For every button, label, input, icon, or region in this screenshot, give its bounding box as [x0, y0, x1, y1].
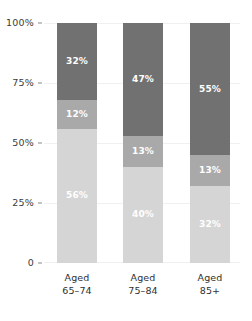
bar-segment-label: 13% — [199, 166, 221, 175]
x-tick-label-aged-85-plus: Aged 85+ — [176, 272, 244, 297]
bar-segment-medium-0[interactable]: 12% — [57, 100, 97, 129]
bar-segment-label: 47% — [132, 75, 154, 84]
x-tick-line-1: Aged — [109, 272, 177, 285]
y-axis: 100% 75% 50% 25% 0 — [0, 0, 44, 321]
y-tick-mark-75 — [38, 83, 42, 84]
bar-segment-label: 13% — [132, 147, 154, 156]
bar-segment-dark-1[interactable]: 47% — [123, 23, 163, 136]
bar-segment-medium-1[interactable]: 13% — [123, 136, 163, 167]
y-tick-label-50: 50% — [0, 138, 34, 148]
bar-segment-dark-0[interactable]: 32% — [57, 23, 97, 100]
x-axis: Aged 65–74 Aged 75–84 Aged 85+ — [44, 272, 240, 312]
y-tick-mark-0 — [38, 263, 42, 264]
bar-segment-label: 32% — [199, 220, 221, 229]
bar-segment-label: 56% — [66, 191, 88, 200]
bar-segment-label: 32% — [66, 57, 88, 66]
y-tick-mark-100 — [38, 23, 42, 24]
stacked-bar-chart: 100% 75% 50% 25% 0 32% 12% 56% — [0, 0, 252, 321]
bar-segment-dark-2[interactable]: 55% — [190, 23, 230, 155]
bar-segment-light-1[interactable]: 40% — [123, 167, 163, 263]
y-tick-label-25: 25% — [0, 198, 34, 208]
bar-segment-light-2[interactable]: 32% — [190, 186, 230, 263]
plot-area: 32% 12% 56% 47% 13% 40% — [44, 23, 240, 263]
y-tick-mark-25 — [38, 203, 42, 204]
bar-aged-75-84[interactable]: 47% 13% 40% — [123, 23, 163, 263]
bar-segment-label: 55% — [199, 85, 221, 94]
bar-segment-label: 40% — [132, 210, 154, 219]
y-tick-label-100: 100% — [0, 18, 34, 28]
x-tick-line-2: 65–74 — [43, 285, 111, 298]
x-tick-line-1: Aged — [176, 272, 244, 285]
bar-aged-85-plus[interactable]: 55% 13% 32% — [190, 23, 230, 263]
x-tick-label-aged-65-74: Aged 65–74 — [43, 272, 111, 297]
x-tick-label-aged-75-84: Aged 75–84 — [109, 272, 177, 297]
x-tick-line-2: 75–84 — [109, 285, 177, 298]
y-tick-mark-50 — [38, 143, 42, 144]
y-tick-label-0: 0 — [0, 258, 34, 268]
x-tick-line-2: 85+ — [176, 285, 244, 298]
bar-segment-medium-2[interactable]: 13% — [190, 155, 230, 186]
bar-segment-light-0[interactable]: 56% — [57, 129, 97, 263]
bar-aged-65-74[interactable]: 32% 12% 56% — [57, 23, 97, 263]
x-tick-line-1: Aged — [43, 272, 111, 285]
y-tick-label-75: 75% — [0, 78, 34, 88]
bar-group: 32% 12% 56% 47% 13% 40% — [44, 23, 240, 263]
bar-segment-label: 12% — [66, 110, 88, 119]
